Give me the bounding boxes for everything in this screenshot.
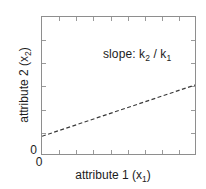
slope-line-series bbox=[42, 17, 195, 154]
slope-annotation-subscript-numerator: 2 bbox=[145, 53, 150, 63]
y-axis-label: attribute 2 (x2) bbox=[17, 15, 31, 155]
slope-annotation-subscript-denominator: 1 bbox=[166, 53, 171, 63]
y-axis-label-subscript: 2 bbox=[23, 51, 33, 56]
x-axis-label-close: ) bbox=[147, 168, 151, 182]
x-axis-label: attribute 1 (x1) bbox=[0, 168, 206, 182]
chart-figure: attribute 2 (x2) 0 0 bbox=[0, 0, 206, 189]
slope-annotation-divider: / k bbox=[150, 47, 166, 61]
y-axis-label-text: attribute 2 (x bbox=[17, 56, 31, 123]
plot-area bbox=[41, 16, 196, 155]
slope-line bbox=[42, 85, 195, 136]
x-axis-label-subscript: 1 bbox=[142, 174, 147, 184]
x-axis-label-text: attribute 1 (x bbox=[75, 168, 142, 182]
x-axis-tick-label-zero: 0 bbox=[33, 155, 45, 169]
plot-inner bbox=[42, 17, 195, 154]
slope-annotation: slope: k2 / k1 bbox=[103, 47, 171, 61]
slope-annotation-prefix: slope: k bbox=[103, 47, 145, 61]
